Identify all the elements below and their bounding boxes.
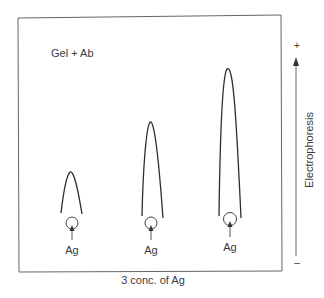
rocket-2: Ag xyxy=(142,122,163,256)
precipitin-arc xyxy=(142,122,163,218)
rocket-immunoelectrophoresis-diagram: Gel + Ab Ag Ag Ag 3 conc. of Ag + xyxy=(0,0,324,298)
electrophoresis-label: Electrophoresis xyxy=(303,112,315,188)
arrow-up-icon xyxy=(293,57,299,66)
precipitin-arc xyxy=(219,69,241,218)
precipitin-arc xyxy=(61,172,82,214)
arrow-up-icon xyxy=(149,225,154,240)
electrophoresis-direction: + – Electrophoresis xyxy=(293,40,315,268)
arrow-up-icon xyxy=(70,225,75,240)
gel-title: Gel + Ab xyxy=(51,47,94,59)
rocket-1: Ag xyxy=(61,172,82,256)
concentration-label: 3 conc. of Ag xyxy=(121,274,185,286)
well-label: Ag xyxy=(65,244,78,256)
arrow-up-icon xyxy=(228,221,233,237)
plus-sign: + xyxy=(294,40,300,51)
well-label: Ag xyxy=(223,241,236,253)
rocket-3: Ag xyxy=(219,69,241,253)
well-label: Ag xyxy=(144,244,157,256)
minus-sign: – xyxy=(294,257,300,268)
